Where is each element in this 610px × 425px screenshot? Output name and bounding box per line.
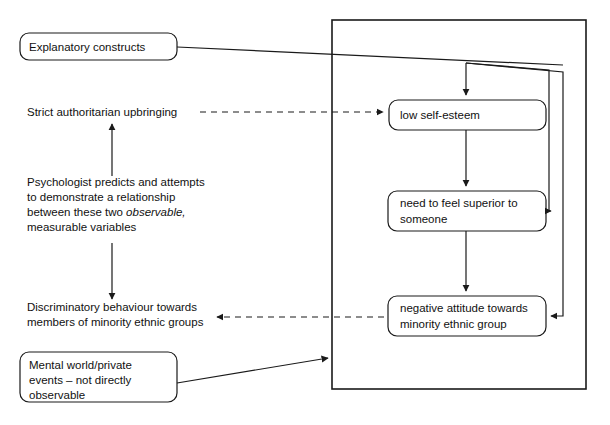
psychologist-note-line-3-head: between these two bbox=[27, 206, 126, 218]
mental-world-line-3: observable bbox=[29, 389, 85, 401]
mental-world-line-1: Mental world/private bbox=[29, 359, 132, 371]
strict-authoritarian-upbringing-label: Strict authoritarian upbringing bbox=[27, 106, 177, 118]
negative-attitude-line-2: minority ethnic group bbox=[400, 318, 507, 330]
diagram-page: Explanatory constructs Strict authoritar… bbox=[0, 0, 610, 425]
low-self-esteem-label: low self-esteem bbox=[400, 109, 480, 121]
feedback-rail-need bbox=[466, 63, 551, 211]
psychologist-note-line-3-emphasis: observable, bbox=[126, 206, 185, 218]
need-to-feel-superior-line-1: need to feel superior to bbox=[400, 197, 518, 209]
need-to-feel-superior-line-2: someone bbox=[400, 213, 447, 225]
negative-attitude-line-1: negative attitude towards bbox=[400, 302, 528, 314]
discriminatory-behaviour-line-2: members of minority ethnic groups bbox=[27, 316, 204, 328]
psychologist-note-line-4: measurable variables bbox=[27, 221, 137, 233]
connector-mental-world bbox=[177, 358, 328, 383]
mental-world-line-2: events – not directly bbox=[29, 374, 132, 386]
connector-explanatory-constructs bbox=[177, 47, 563, 65]
explanatory-constructs-label: Explanatory constructs bbox=[29, 41, 146, 53]
psychologist-note-line-3: between these two observable, bbox=[27, 206, 186, 218]
diagram-canvas: Explanatory constructs Strict authoritar… bbox=[0, 0, 610, 425]
discriminatory-behaviour-line-1: Discriminatory behaviour towards bbox=[27, 301, 197, 313]
psychologist-note-line-1: Psychologist predicts and attempts bbox=[27, 176, 205, 188]
psychologist-note-line-2: to demonstrate a relationship bbox=[27, 191, 175, 203]
